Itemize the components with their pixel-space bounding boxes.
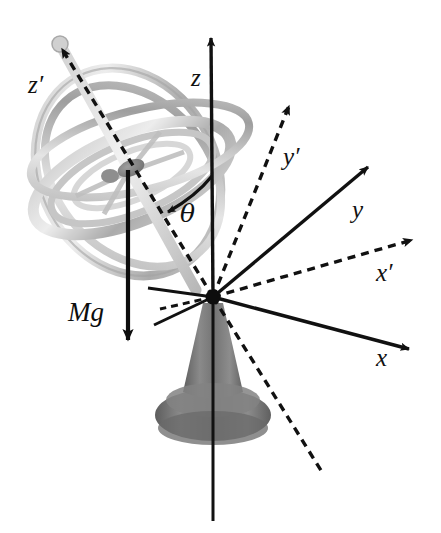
label-theta: θ: [180, 199, 195, 228]
label-x-prime: x′: [375, 259, 393, 286]
flywheel-hub-side: [101, 169, 119, 183]
label-z-prime: z′: [27, 71, 44, 98]
label-x: x: [375, 344, 387, 371]
figure-canvas: z′ z y′ y x′ x θ Mg: [0, 0, 441, 533]
gyroscope-figure: z′ z y′ y x′ x θ Mg: [0, 0, 441, 533]
label-y: y: [349, 196, 364, 223]
axis-y[interactable]: [213, 167, 368, 297]
shaft-knob: [52, 36, 68, 52]
label-mg: Mg: [67, 297, 104, 327]
space-fixed-axes: [206, 38, 410, 349]
label-z: z: [190, 64, 201, 91]
origin-point: [206, 290, 221, 305]
axis-x[interactable]: [213, 297, 409, 349]
label-y-prime: y′: [280, 143, 300, 170]
axis-z[interactable]: [211, 38, 213, 297]
negative-y-axis[interactable]: [148, 288, 213, 297]
